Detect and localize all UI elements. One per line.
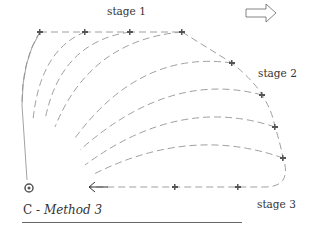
origin-line: [22, 32, 40, 180]
inner-curve-5: [75, 61, 232, 138]
caption-underline: [22, 222, 242, 223]
aircraft-icons: [37, 29, 286, 190]
hollow-right-arrow-icon: [246, 4, 276, 22]
caption-prefix: C -: [23, 203, 44, 217]
figure-caption: C - Method 3: [23, 203, 102, 217]
aircraft-icon: [280, 155, 286, 161]
inner-curve-4: [55, 32, 182, 127]
aircraft-icon: [259, 92, 265, 98]
inner-curve-6: [80, 89, 262, 150]
stage2-label: stage 2: [258, 67, 297, 79]
origin-marker-icon: [25, 184, 33, 192]
aircraft-icon: [82, 29, 88, 35]
outer-arc-path: [90, 32, 286, 187]
left-arrow-icon: [89, 182, 108, 192]
aircraft-icon: [235, 184, 241, 190]
stage1-label: stage 1: [107, 5, 146, 17]
aircraft-icon: [37, 29, 43, 35]
aircraft-icon: [172, 184, 178, 190]
aircraft-icon: [127, 29, 133, 35]
inner-curve-8: [92, 145, 283, 175]
inner-curve-2: [33, 32, 85, 120]
inner-curve-3: [45, 32, 130, 120]
aircraft-icon: [179, 29, 185, 35]
aircraft-icon: [272, 124, 278, 130]
stage3-label: stage 3: [257, 198, 296, 210]
caption-method: Method 3: [44, 203, 102, 217]
